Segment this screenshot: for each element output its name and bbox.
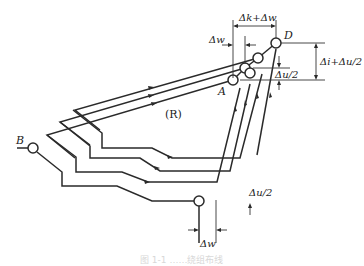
node-D xyxy=(271,38,281,48)
label-D: D xyxy=(283,29,293,42)
node-2 xyxy=(253,53,263,63)
figure-caption: 图 1-1 ……绕组布线 xyxy=(140,254,223,265)
dim-bottom-step-label: Δu/2 xyxy=(248,187,272,198)
nodes xyxy=(28,38,281,206)
dim-right-label: Δi+Δu/2 xyxy=(319,56,362,67)
label-A: A xyxy=(217,85,226,98)
node-4 xyxy=(245,68,255,78)
node-B xyxy=(28,143,38,153)
upper-wires xyxy=(47,43,276,158)
dim-offset-label: Δw xyxy=(208,34,225,45)
dim-right xyxy=(240,43,325,90)
node-bottom xyxy=(194,196,204,206)
region-label: (R) xyxy=(165,108,182,121)
winding-diagram: D A B (R) Δk+Δw Δw Δi+Δu/2 Δu/2 xyxy=(0,0,364,266)
dim-step-label: Δu/2 xyxy=(274,69,298,80)
dim-top-label: Δk+Δw xyxy=(238,12,277,23)
label-B: B xyxy=(15,134,24,147)
dim-bottom-width-label: Δw xyxy=(199,238,216,249)
